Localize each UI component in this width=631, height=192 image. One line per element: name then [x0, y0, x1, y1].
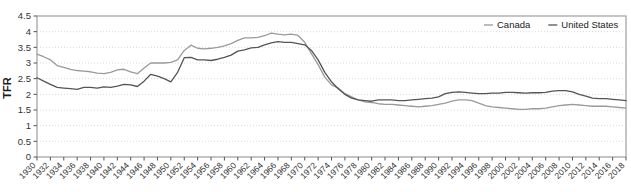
plot-area [37, 16, 626, 157]
y-tick-label: 4.5 [18, 10, 31, 21]
y-tick-label: 1.5 [18, 104, 31, 115]
y-tick-label: 1 [26, 120, 31, 131]
x-tick-label: 2018 [606, 160, 627, 181]
y-tick-label: 4 [26, 26, 31, 37]
chart-canvas: 00.511.522.533.544.5TFR19301932193419361… [0, 0, 631, 192]
y-tick-label: 2.5 [18, 73, 31, 84]
y-tick-label: 2 [26, 89, 31, 100]
legend-label: United States [561, 19, 618, 30]
y-tick-label: 3 [26, 57, 31, 68]
y-axis-title: TFR [1, 77, 13, 98]
x-axis: 1930193219341936193819401942194419461948… [17, 157, 627, 181]
legend-label: Canada [497, 19, 531, 30]
y-tick-label: 0.5 [18, 136, 31, 147]
tfr-line-chart: 00.511.522.533.544.5TFR19301932193419361… [0, 0, 631, 192]
y-tick-label: 3.5 [18, 42, 31, 53]
